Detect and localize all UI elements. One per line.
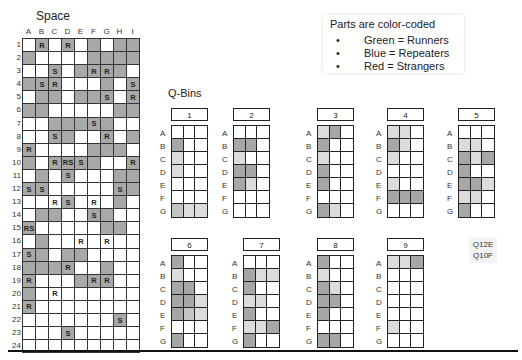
- space-cell: [88, 262, 101, 275]
- space-cell: [127, 301, 140, 314]
- space-cell: S: [62, 327, 75, 340]
- space-cell: [75, 78, 88, 91]
- qbin-slot: [256, 308, 268, 321]
- space-cell: [75, 118, 88, 131]
- qbin-slot: [257, 165, 269, 178]
- space-cell: [75, 39, 88, 52]
- space-cell: S: [36, 183, 49, 196]
- qbin-slot: [184, 152, 196, 165]
- qbin-row-label: E: [222, 179, 230, 192]
- space-cell: [36, 314, 49, 327]
- space-column-header: D: [61, 27, 74, 36]
- space-cell: S: [88, 118, 101, 131]
- space-cell: [75, 249, 88, 262]
- space-cell: [101, 118, 114, 131]
- qbin-slot: [267, 308, 279, 321]
- space-cell: [62, 118, 75, 131]
- space-column-headers: ABCDEFGHI: [22, 27, 139, 36]
- qbin-slot: [195, 295, 207, 308]
- space-cell: [114, 275, 127, 288]
- space-cell: [23, 170, 36, 183]
- qbin-row-label: B: [232, 270, 240, 283]
- qbin-slot: [388, 256, 400, 269]
- qbin-slot: [482, 139, 494, 152]
- qbin-slot: [257, 126, 269, 139]
- qbin-slot: [400, 269, 412, 282]
- space-cell: [127, 144, 140, 157]
- qbin-slot: [341, 282, 353, 295]
- space-row-label: 13: [6, 195, 22, 208]
- divider-line: [8, 350, 518, 352]
- space-cell: [23, 314, 36, 327]
- space-cell: [62, 52, 75, 65]
- qbin-slot: [172, 295, 184, 308]
- qbin-slot: [471, 126, 483, 139]
- space-cell: [127, 327, 140, 340]
- space-cell: S: [114, 183, 127, 196]
- space-cell: S: [75, 157, 88, 170]
- space-row-label: 15: [6, 221, 22, 234]
- legend-title: Parts are color-coded: [330, 18, 435, 30]
- space-cell: [75, 209, 88, 222]
- space-column-header: H: [113, 27, 126, 36]
- space-column-header: E: [74, 27, 87, 36]
- qbin-slot: [330, 321, 342, 334]
- space-cell: S: [101, 91, 114, 104]
- qbin-slot: [388, 191, 400, 204]
- qbin-slot: [400, 139, 412, 152]
- space-row-label: 12: [6, 182, 22, 195]
- qbin-slot: [341, 152, 353, 165]
- space-cell: R: [88, 275, 101, 288]
- space-cell: [101, 288, 114, 301]
- space-row-label: 2: [6, 51, 22, 64]
- space-cell: [36, 301, 49, 314]
- qbin-slot: [341, 204, 353, 217]
- space-cell: [36, 104, 49, 117]
- qbin-grid: [317, 125, 354, 218]
- space-cell: [101, 78, 114, 91]
- space-cell: [62, 222, 75, 235]
- qbin-slot: [318, 152, 330, 165]
- qbin-row-label: B: [160, 140, 168, 153]
- qbin-slot: [411, 165, 423, 178]
- space-cell: S: [23, 249, 36, 262]
- space-cell: S: [127, 78, 140, 91]
- qbin-slot: [172, 126, 184, 139]
- space-cell: [127, 131, 140, 144]
- qbin-row-label: G: [447, 205, 455, 218]
- space-cell: [36, 209, 49, 222]
- space-cell: [36, 91, 49, 104]
- legend-item-runners: •Green = Runners: [323, 34, 449, 47]
- space-cell: [75, 314, 88, 327]
- space-cell: [88, 222, 101, 235]
- qbin-slot: [184, 308, 196, 321]
- space-cell: [127, 262, 140, 275]
- qbin-slot: [244, 295, 256, 308]
- qbin-slot: [388, 139, 400, 152]
- qbin-slot: [184, 295, 196, 308]
- qbin-row-label: G: [160, 205, 168, 218]
- space-cell: [75, 275, 88, 288]
- space-cell: [49, 118, 62, 131]
- qbin-slot: [195, 178, 207, 191]
- qbin-slot: [400, 165, 412, 178]
- qbin-slot: [318, 334, 330, 347]
- qbin-slot: [318, 139, 330, 152]
- qbin-slot: [172, 282, 184, 295]
- qbin-row-labels: ABCDEFG: [222, 127, 230, 218]
- space-cell: S: [23, 183, 36, 196]
- qbin-slot: [172, 256, 184, 269]
- qbin-row-label: E: [160, 179, 168, 192]
- space-cell: [114, 235, 127, 248]
- qbin-slot: [411, 191, 423, 204]
- qbin-row-label: G: [306, 335, 314, 348]
- space-cell: [114, 104, 127, 117]
- space-cell: [114, 196, 127, 209]
- space-cell: [127, 209, 140, 222]
- space-cell: [49, 222, 62, 235]
- legend-item-repeaters: •Blue = Repeaters: [323, 47, 449, 60]
- space-cell: [49, 104, 62, 117]
- qbin-slot: [234, 139, 246, 152]
- qbin-slot: [184, 204, 196, 217]
- space-row-label: 16: [6, 234, 22, 247]
